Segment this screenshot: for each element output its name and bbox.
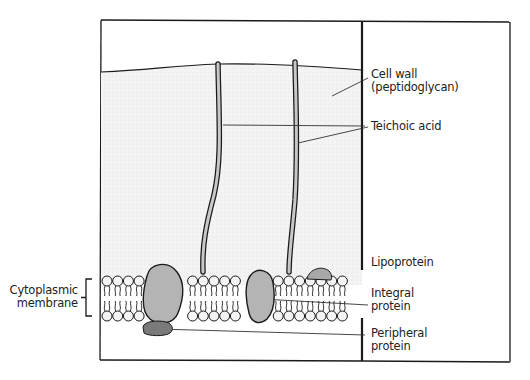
label-lipoprotein: Lipoprotein <box>371 256 434 269</box>
cell-envelope-diagram <box>0 0 530 380</box>
label-cell-wall-line2: (peptidoglycan) <box>371 81 459 94</box>
label-cell-wall: Cell wall (peptidoglycan) <box>371 68 459 94</box>
diagram-stage: Cell wall (peptidoglycan) Teichoic acid … <box>0 0 530 380</box>
label-teichoic-acid: Teichoic acid <box>371 120 441 133</box>
label-peripheral-protein: Peripheral protein <box>371 327 427 353</box>
peripheral-protein <box>143 321 172 336</box>
integral-protein-left <box>143 264 183 323</box>
label-integral-line2: protein <box>371 300 414 313</box>
membrane-bracket <box>81 279 92 316</box>
label-peripheral-line2: protein <box>371 340 427 353</box>
label-integral-protein: Integral protein <box>371 287 414 313</box>
lipid-bilayer <box>102 276 347 321</box>
label-cytoplasmic-membrane: Cytoplasmic membrane <box>6 284 78 310</box>
cell-wall-region <box>101 64 362 285</box>
leader-peripheral <box>158 329 365 335</box>
integral-protein-right <box>246 270 274 322</box>
label-cytoplasmic-line2: membrane <box>6 297 78 310</box>
leader-integral <box>262 299 368 305</box>
